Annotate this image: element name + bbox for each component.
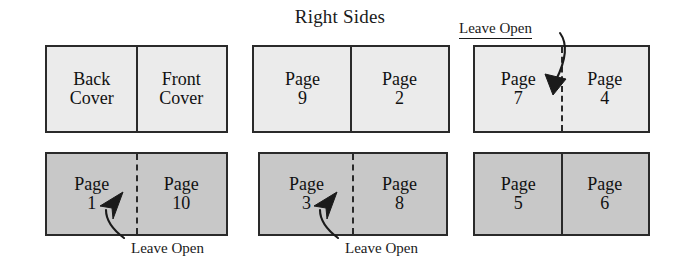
spread-1-10: Page 1 Page 10: [45, 152, 228, 236]
callout-label-leave-open-3-8: Leave Open: [345, 240, 418, 257]
half-label-line1: Page: [587, 175, 622, 194]
spread-3-8: Page 3 Page 8: [258, 152, 448, 236]
spread-5-6: Page 5 Page 6: [473, 152, 650, 236]
half-label-line1: Page: [501, 70, 536, 89]
callout-label-leave-open-7-4: Leave Open: [459, 20, 532, 39]
half-label-line2: 2: [395, 89, 404, 108]
spread-divider-solid: [350, 47, 352, 131]
half-label-line2: 4: [600, 89, 609, 108]
half-label-line2: Cover: [159, 89, 203, 108]
spread-half-right: Page 2: [351, 47, 448, 131]
half-label-line2: 10: [172, 194, 190, 213]
half-label-line1: Page: [164, 175, 199, 194]
spread-half-left: Back Cover: [47, 47, 137, 131]
spread-half-left: Page 3: [260, 154, 353, 234]
spread-divider-dashed: [136, 154, 138, 234]
diagram-page: Right Sides Back Cover Front Cover Page …: [0, 0, 680, 271]
half-label-line2: 7: [514, 89, 523, 108]
half-label-line2: 6: [600, 194, 609, 213]
half-label-line1: Front: [162, 70, 201, 89]
spread-divider-solid: [136, 47, 138, 131]
spread-half-right: Page 10: [137, 154, 227, 234]
spread-half-right: Page 4: [562, 47, 649, 131]
half-label-line1: Back: [73, 70, 110, 89]
half-label-line1: Page: [382, 175, 417, 194]
spread-half-right: Page 6: [562, 154, 649, 234]
page-title: Right Sides: [0, 6, 680, 28]
half-label-line1: Page: [74, 175, 109, 194]
half-label-line1: Page: [501, 175, 536, 194]
spread-divider-dashed: [561, 47, 563, 131]
spread-half-right: Front Cover: [137, 47, 227, 131]
spread-divider-solid: [561, 154, 563, 234]
half-label-line1: Page: [289, 175, 324, 194]
spread-half-left: Page 9: [254, 47, 351, 131]
spread-7-4: Page 7 Page 4: [473, 45, 650, 133]
half-label-line1: Page: [382, 70, 417, 89]
half-label-line2: Cover: [70, 89, 114, 108]
half-label-line2: 5: [514, 194, 523, 213]
half-label-line1: Page: [587, 70, 622, 89]
spread-back-front-cover: Back Cover Front Cover: [45, 45, 228, 133]
spread-half-left: Page 1: [47, 154, 137, 234]
half-label-line2: 9: [298, 89, 307, 108]
spread-half-left: Page 7: [475, 47, 562, 131]
spread-divider-dashed: [352, 154, 354, 234]
spread-half-right: Page 8: [353, 154, 446, 234]
half-label-line2: 8: [395, 194, 404, 213]
spread-half-left: Page 5: [475, 154, 562, 234]
callout-label-leave-open-1-10: Leave Open: [131, 240, 204, 257]
half-label-line1: Page: [285, 70, 320, 89]
half-label-line2: 1: [87, 194, 96, 213]
spread-9-2: Page 9 Page 2: [252, 45, 450, 133]
half-label-line2: 3: [302, 194, 311, 213]
